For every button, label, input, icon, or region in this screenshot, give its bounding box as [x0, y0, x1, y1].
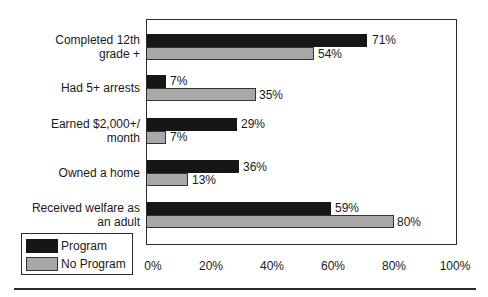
value-label: 7% [170, 75, 187, 88]
label-line: Earned $2,000+/ [0, 117, 140, 131]
label-line: Owned a home [0, 166, 140, 180]
label-line: Received welfare as [0, 201, 140, 215]
bar-noprogram-completed-12th [147, 47, 314, 60]
bar-program-completed-12th [147, 34, 367, 47]
bar-noprogram-earned [147, 131, 166, 144]
category-label-home: Owned a home [0, 166, 140, 180]
category-label-welfare: Received welfare as an adult [0, 201, 140, 229]
category-label-completed-12th: Completed 12th grade + [0, 33, 140, 61]
category-label-arrests: Had 5+ arrests [0, 81, 140, 95]
label-line: grade + [0, 47, 140, 61]
x-tick-0: 0% [144, 259, 161, 273]
value-label: 29% [241, 118, 265, 131]
bar-program-earned [147, 118, 237, 131]
label-line: an adult [0, 215, 140, 229]
label-line: Completed 12th [0, 33, 140, 47]
x-tick-40: 40% [260, 259, 284, 273]
value-label: 36% [243, 161, 267, 174]
bottom-rule [14, 288, 476, 290]
label-line: month [0, 131, 140, 145]
x-tick-80: 80% [382, 259, 406, 273]
value-label: 59% [335, 202, 359, 215]
bar-noprogram-home [147, 173, 188, 186]
value-label: 80% [397, 216, 421, 229]
x-tick-100: 100% [440, 259, 471, 273]
value-label: 71% [372, 34, 396, 47]
bar-program-arrests [147, 75, 166, 88]
legend-swatch-no-program [26, 257, 58, 271]
label-line: Had 5+ arrests [0, 81, 140, 95]
bar-noprogram-welfare [147, 215, 394, 228]
value-label: 35% [259, 89, 283, 102]
legend-item-no-program: No Program [26, 256, 126, 271]
category-label-earned: Earned $2,000+/ month [0, 117, 140, 145]
legend-item-program: Program [26, 238, 107, 253]
value-label: 54% [318, 48, 342, 61]
x-tick-60: 60% [321, 259, 345, 273]
bar-program-welfare [147, 202, 331, 215]
x-tick-20: 20% [199, 259, 223, 273]
legend-swatch-program [26, 239, 58, 253]
value-label: 7% [170, 131, 187, 144]
bar-noprogram-arrests [147, 88, 256, 101]
legend: Program No Program [21, 233, 133, 275]
legend-label: Program [61, 239, 107, 253]
value-label: 13% [192, 174, 216, 187]
legend-label: No Program [61, 257, 126, 271]
bar-program-home [147, 160, 239, 173]
